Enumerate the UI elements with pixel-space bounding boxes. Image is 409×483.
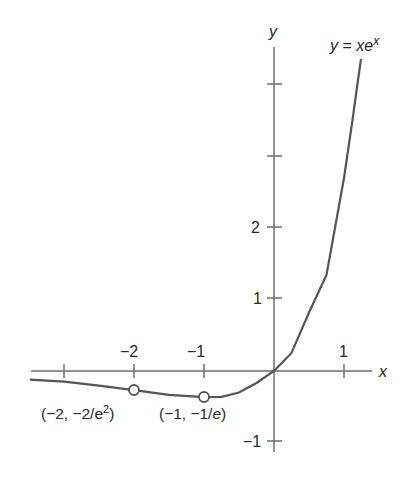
x-tick-label-minus1: −1 bbox=[187, 343, 205, 360]
point-minus1-label: (−1, −1/e) bbox=[159, 405, 226, 422]
y-axis-label: y bbox=[268, 23, 278, 40]
x-tick-label-minus2: −2 bbox=[120, 343, 138, 360]
y-tick-label-2: 2 bbox=[251, 219, 260, 236]
point-minus2-label: (−2, −2/e2) bbox=[41, 403, 114, 422]
point-minus2 bbox=[129, 385, 139, 395]
y-tick-label-minus1: −1 bbox=[243, 433, 261, 450]
x-axis-label: x bbox=[378, 363, 388, 380]
equation-label: y = xex bbox=[329, 34, 380, 54]
point-minus1 bbox=[199, 392, 209, 402]
chart: y x −2 −1 1 2 1 −1 y = xex (−2, −2/e2) (… bbox=[0, 0, 409, 483]
y-tick-label-1: 1 bbox=[253, 290, 262, 307]
x-tick-label-1: 1 bbox=[339, 343, 348, 360]
